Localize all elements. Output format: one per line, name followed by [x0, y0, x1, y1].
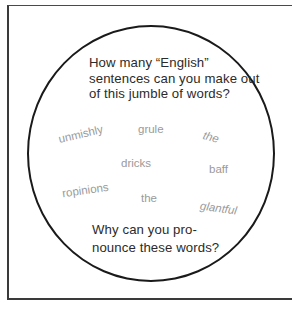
- jumble-word: baff: [209, 163, 228, 175]
- jumble-word: dricks: [121, 157, 151, 169]
- bottom-question: Why can you pro- nounce these words?: [92, 221, 219, 257]
- jumble-word: the: [141, 192, 157, 204]
- top-question-line: sentences can you make out: [89, 71, 259, 87]
- bottom-question-line: Why can you pro-: [92, 221, 219, 239]
- bottom-question-line: nounce these words?: [92, 239, 219, 257]
- top-question-line: How many “English”: [89, 55, 259, 71]
- top-question-line: of this jumble of words?: [89, 86, 259, 102]
- top-question: How many “English” sentences can you mak…: [89, 55, 259, 102]
- jumble-word: grule: [138, 123, 164, 135]
